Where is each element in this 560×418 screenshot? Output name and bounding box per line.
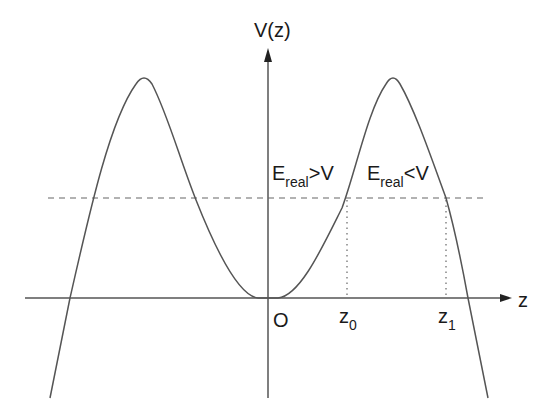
x-axis-arrow-icon [500, 294, 512, 302]
z1-symbol: z [438, 305, 448, 327]
region-right-label: Ereal<V [367, 163, 429, 183]
region-right-subscript: real [380, 174, 403, 190]
region-right-symbol: E [367, 162, 380, 184]
region-left-subscript: real [285, 174, 308, 190]
z0-label: z0 [339, 306, 357, 326]
y-axis-arrow-icon [264, 48, 272, 62]
origin-label: O [273, 310, 289, 330]
region-left-symbol: E [272, 162, 285, 184]
z1-label: z1 [438, 306, 456, 326]
x-axis-label: z [518, 290, 528, 310]
region-left-label: Ereal>V [272, 163, 334, 183]
potential-curve [50, 78, 488, 398]
region-right-relation: <V [404, 162, 429, 184]
y-axis-label: V(z) [254, 20, 291, 40]
z0-symbol: z [339, 305, 349, 327]
z1-subscript: 1 [448, 317, 456, 333]
potential-diagram [0, 0, 560, 418]
region-left-relation: >V [309, 162, 334, 184]
z0-subscript: 0 [349, 317, 357, 333]
